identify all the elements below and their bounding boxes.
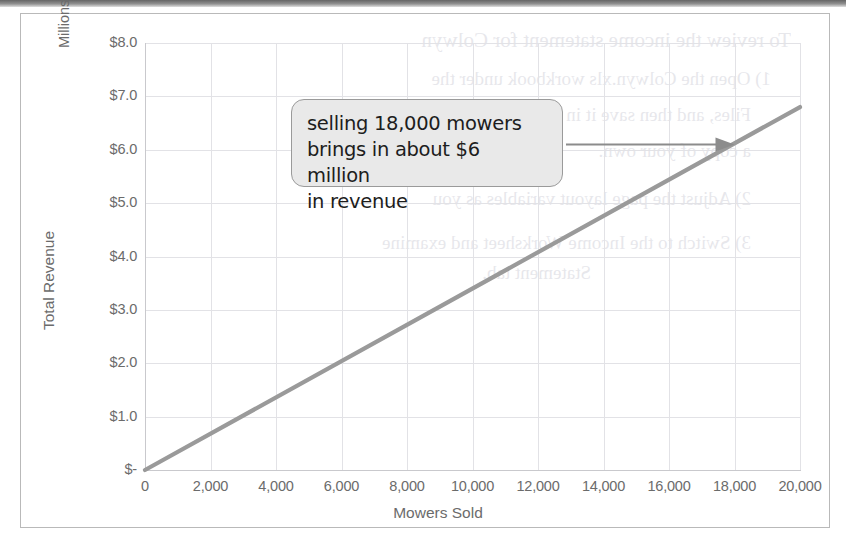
y-axis-title: Total Revenue [40,231,58,330]
y-axis-tick-label: $3.0 [77,301,137,317]
x-axis-tick-label: 10,000 [438,478,508,494]
y-axis-unit-label: Millions [56,0,72,48]
gridline-horizontal [145,43,800,44]
y-axis-tick-labels: $-$1.0$2.0$3.0$4.0$5.0$6.0$7.0$8.0 [75,0,137,551]
x-axis-title-text: Mowers Sold [393,504,483,521]
y-axis-tick-label: $5.0 [77,194,137,210]
x-axis-tick-label: 12,000 [503,478,573,494]
y-axis-line [145,43,146,471]
revenue-callout: selling 18,000 mowers brings in about $6… [291,99,563,187]
callout-line-3: in revenue [307,189,548,215]
x-axis-tick-label: 2,000 [176,478,246,494]
x-axis-line [145,470,801,471]
x-axis-tick-label: 8,000 [372,478,442,494]
x-axis-title: Mowers Sold [0,504,846,522]
x-axis-tick-label: 16,000 [634,478,704,494]
x-axis-tick-label: 14,000 [569,478,639,494]
x-axis-tick-label: 6,000 [307,478,377,494]
y-axis-tick-label: $4.0 [77,248,137,264]
x-axis-tick-label: 18,000 [700,478,770,494]
gridline-vertical [800,43,801,470]
x-axis-tick-label: 20,000 [765,478,835,494]
callout-line-1: selling 18,000 mowers [307,111,548,137]
gridline-horizontal [145,417,800,418]
y-axis-tick-label: $6.0 [77,141,137,157]
callout-line-2: brings in about $6 million [307,137,548,189]
y-axis-tick-label: $7.0 [77,87,137,103]
x-axis-tick-label: 0 [110,478,180,494]
gridline-horizontal [145,257,800,258]
gridline-horizontal [145,310,800,311]
y-axis-tick-label: $2.0 [77,354,137,370]
gridline-horizontal [145,96,800,97]
y-axis-tick-label: $1.0 [77,408,137,424]
y-axis-tick-label: $- [77,461,137,477]
gridline-horizontal [145,363,800,364]
y-axis-tick-label: $8.0 [77,34,137,50]
x-axis-tick-label: 4,000 [241,478,311,494]
